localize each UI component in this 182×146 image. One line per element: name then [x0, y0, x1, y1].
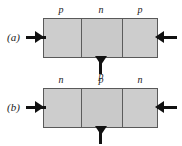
panel-b-collector-region — [123, 89, 157, 127]
panel-a-collector-lead — [157, 36, 177, 39]
panel-b-emitter-arrow-icon — [35, 101, 44, 113]
panel-a-emitter-doping-label: p — [51, 4, 71, 15]
panel-a-base-region — [81, 19, 123, 57]
panel-a-emitter-arrow-icon — [35, 31, 44, 43]
panel-b-base-region — [81, 89, 123, 127]
panel-a-pnp: (a) p n p p — [0, 0, 182, 80]
panel-b-base-lead — [99, 128, 102, 144]
panel-b-emitter-doping-label: n — [51, 74, 71, 85]
panel-a-label: (a) — [7, 31, 20, 43]
panel-b-base-doping-label: p — [91, 74, 111, 85]
panel-b-emitter-region — [44, 89, 81, 127]
panel-a-emitter-region — [44, 19, 81, 57]
panel-b-label: (b) — [7, 101, 20, 113]
panel-a-device-body — [43, 18, 158, 58]
transistor-structure-figure: (a) p n p p (b) n p n — [0, 0, 182, 146]
panel-a-collector-region — [123, 19, 157, 57]
panel-b-collector-lead — [157, 106, 177, 109]
panel-a-collector-doping-label: p — [130, 4, 150, 15]
panel-b-device-body — [43, 88, 158, 128]
panel-b-collector-doping-label: n — [130, 74, 150, 85]
panel-b-npn: (b) n p n — [0, 70, 182, 146]
panel-a-base-doping-label: n — [91, 4, 111, 15]
